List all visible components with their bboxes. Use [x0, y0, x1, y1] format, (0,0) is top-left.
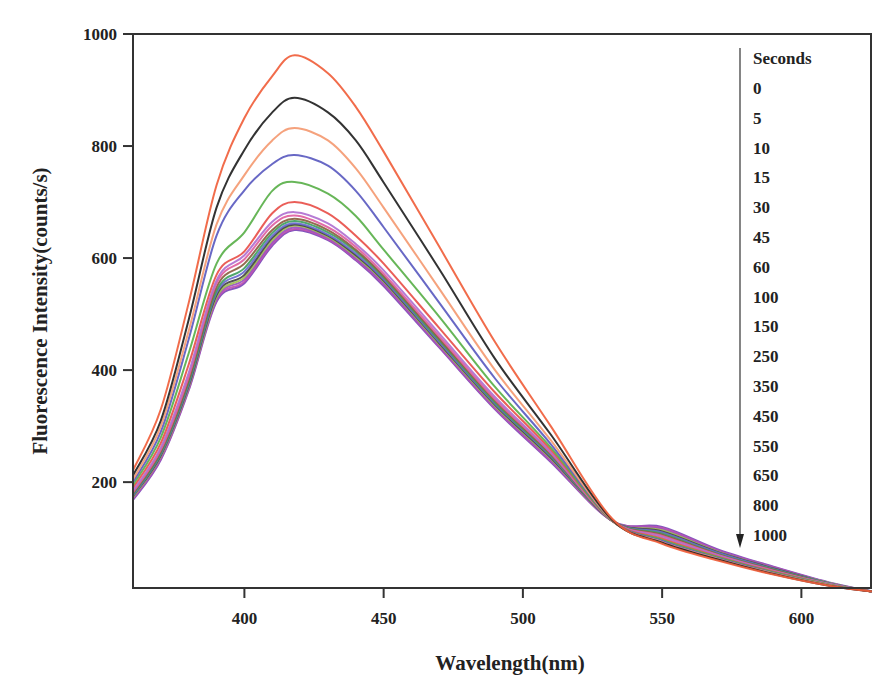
legend-item-1000: 1000: [753, 526, 787, 545]
y-axis-title: Fluorescence Intensity(counts/s): [28, 167, 52, 454]
legend-item-150: 150: [753, 317, 779, 336]
x-axis-title: Wavelength(nm): [435, 651, 584, 675]
x-axis-ticks: 400450500550600: [232, 588, 814, 628]
legend-item-650: 650: [753, 466, 779, 485]
legend-item-100: 100: [753, 288, 779, 307]
y-tick-label: 200: [92, 473, 118, 492]
legend-item-10: 10: [753, 139, 770, 158]
legend-items: 0510153045601001502503504505506508001000: [753, 79, 787, 545]
legend-item-15: 15: [753, 168, 770, 187]
legend-item-45: 45: [753, 228, 770, 247]
legend-arrow-head-icon: [736, 534, 744, 548]
fluorescence-chart: 400450500550600 2004006008001000 Wavelen…: [0, 0, 896, 699]
x-tick-label: 400: [232, 609, 258, 628]
y-tick-label: 1000: [83, 25, 117, 44]
y-tick-label: 600: [92, 249, 118, 268]
legend: Seconds 05101530456010015025035045055065…: [736, 48, 812, 548]
x-tick-label: 500: [510, 609, 536, 628]
legend-item-5: 5: [753, 109, 762, 128]
legend-item-250: 250: [753, 347, 779, 366]
legend-item-450: 450: [753, 407, 779, 426]
legend-item-30: 30: [753, 198, 770, 217]
x-tick-label: 550: [649, 609, 675, 628]
y-tick-label: 400: [92, 361, 118, 380]
legend-item-0: 0: [753, 79, 762, 98]
legend-item-350: 350: [753, 377, 779, 396]
legend-title: Seconds: [753, 49, 812, 68]
y-tick-label: 800: [92, 137, 118, 156]
y-axis-ticks: 2004006008001000: [83, 25, 133, 492]
legend-item-800: 800: [753, 496, 779, 515]
x-tick-label: 600: [789, 609, 815, 628]
legend-item-550: 550: [753, 437, 779, 456]
legend-item-60: 60: [753, 258, 770, 277]
x-tick-label: 450: [371, 609, 397, 628]
